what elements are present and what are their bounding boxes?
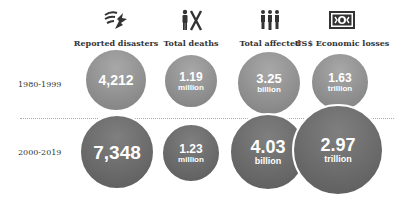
bubble-2000-disasters: 7,348 <box>79 114 155 190</box>
bubble-2000-deaths: 1.23 million <box>161 123 221 183</box>
bubble-1980-affected: 3.25 billion <box>236 50 302 116</box>
banknote-icon <box>292 8 392 32</box>
row-label-1980-1999: 1980-1999 <box>18 80 61 89</box>
bubble-1980-disasters: 4,212 <box>84 48 148 112</box>
bubble-2000-losses: 2.97 trillion <box>292 104 384 196</box>
column-label: US$ Economic losses <box>292 38 392 48</box>
bubble-1980-deaths: 1.19 million <box>163 53 219 109</box>
column-header-losses: US$ Economic losses <box>292 8 392 48</box>
row-label-2000-2019: 2000-2019 <box>18 148 61 157</box>
bubble-1980-losses: 1.63 trillion <box>310 52 370 112</box>
